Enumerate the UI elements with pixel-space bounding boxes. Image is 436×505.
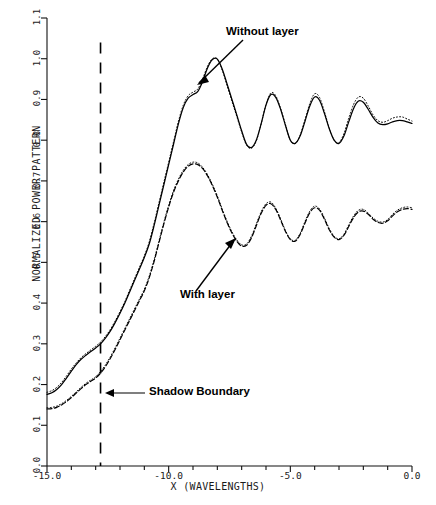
- y-tick-label: 1.1: [32, 4, 42, 30]
- y-tick-label: 0.4: [32, 289, 42, 315]
- y-tick-label: 1.0: [32, 45, 42, 71]
- y-tick-label: 0.7: [32, 167, 42, 193]
- y-tick-label: 0.9: [32, 85, 42, 111]
- series-line: [47, 164, 412, 409]
- y-tick-label: 0.1: [32, 411, 42, 437]
- annotation-shadow-boundary: Shadow Boundary: [149, 385, 250, 397]
- x-tick-marks: [47, 466, 412, 472]
- annotation-with-layer: With layer: [180, 288, 235, 300]
- x-axis-label: X (WAVELENGTHS): [0, 481, 436, 492]
- chart-canvas: [0, 0, 436, 505]
- y-tick-label: 0.3: [32, 330, 42, 356]
- without-layer-arrow-head: [197, 75, 209, 85]
- y-tick-label: 0.5: [32, 248, 42, 274]
- y-tick-label: 0.6: [32, 208, 42, 234]
- chart-figure: NORMALIZED POWER PATTERN X (WAVELENGTHS)…: [0, 0, 436, 505]
- annotation-without-layer: Without layer: [226, 25, 299, 37]
- with-layer-arrow-line: [196, 240, 234, 291]
- y-tick-label: 0.2: [32, 371, 42, 397]
- with-layer-arrow-head: [225, 238, 236, 249]
- y-tick-label: 0.8: [32, 126, 42, 152]
- x-tick-label: -10.0: [146, 470, 192, 481]
- annotation-arrows: [105, 40, 243, 397]
- x-tick-label: -5.0: [267, 470, 313, 481]
- x-tick-label: -15.0: [24, 470, 70, 481]
- data-series-group: [47, 58, 412, 409]
- x-tick-label: 0.0: [389, 470, 435, 481]
- shadow-boundary-arrow-head: [105, 389, 114, 397]
